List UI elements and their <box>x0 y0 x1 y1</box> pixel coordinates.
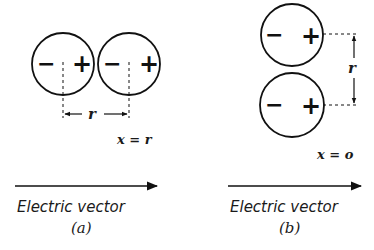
negative-charge: − <box>265 22 283 47</box>
condition-label: x = r <box>116 132 153 147</box>
negative-charge: − <box>103 51 121 76</box>
positive-charge: + <box>72 50 92 78</box>
positive-charge: + <box>301 92 321 120</box>
dipole-b-bottom: − + <box>260 73 324 137</box>
dipole-diagram: − + − + r x = r Electric vector (a) − + <box>0 0 374 250</box>
panel-b: − + − + r x = o Electric vector (b) <box>228 4 361 237</box>
negative-charge: − <box>265 92 283 117</box>
distance-label-r: r <box>88 105 97 123</box>
negative-charge: − <box>37 51 55 76</box>
positive-charge: + <box>301 22 321 50</box>
panel-caption-a: (a) <box>71 219 92 237</box>
distance-label-r: r <box>348 59 357 77</box>
panel-a: − + − + r x = r Electric vector (a) <box>15 33 160 237</box>
electric-vector-label: Electric vector <box>17 198 126 216</box>
positive-charge: + <box>139 50 159 78</box>
condition-label: x = o <box>316 147 354 162</box>
panel-caption-b: (b) <box>279 219 300 237</box>
electric-vector-label: Electric vector <box>230 198 339 216</box>
dipole-b-top: − + <box>261 4 323 66</box>
